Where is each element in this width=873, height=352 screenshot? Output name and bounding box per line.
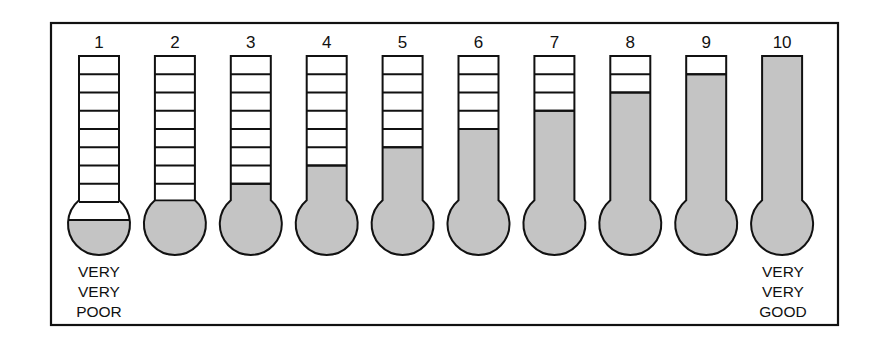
thermometer-number: 9 xyxy=(701,33,710,52)
high-anchor-line-1: VERY xyxy=(762,263,804,280)
high-anchor-line-3: GOOD xyxy=(759,303,806,320)
thermometer-number: 7 xyxy=(550,33,559,52)
thermometer-scale: 12345678910 VERY VERY POOR VERY VERY GOO… xyxy=(0,0,873,352)
low-anchor-line-3: POOR xyxy=(76,303,122,320)
thermometer-number: 3 xyxy=(246,33,255,52)
thermometer-number: 1 xyxy=(94,33,103,52)
low-anchor-line-2: VERY xyxy=(78,283,120,300)
thermometer-number: 10 xyxy=(773,33,792,52)
thermometer-number: 4 xyxy=(322,33,331,52)
thermometer-number: 8 xyxy=(626,33,635,52)
high-anchor-line-2: VERY xyxy=(762,283,804,300)
low-anchor-line-1: VERY xyxy=(78,263,120,280)
thermometer-number: 2 xyxy=(170,33,179,52)
thermometer-number: 6 xyxy=(474,33,483,52)
thermometer-number: 5 xyxy=(398,33,407,52)
